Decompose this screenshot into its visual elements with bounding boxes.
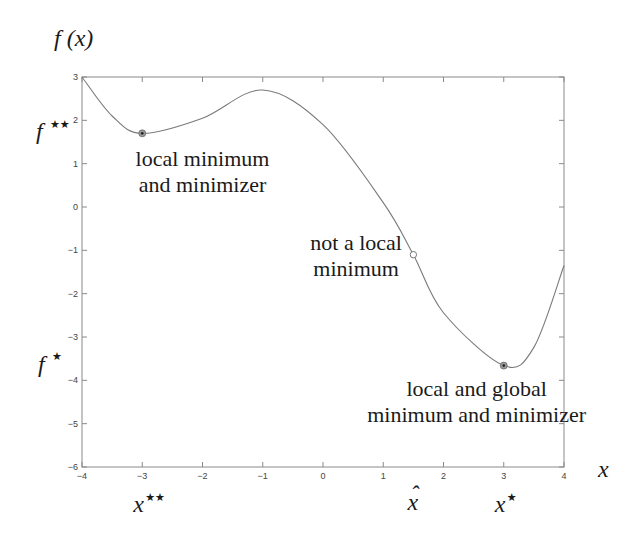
f-star-label: f: [38, 351, 48, 377]
x-axis-title: x: [597, 456, 609, 482]
chart-canvas: −4−3−2−101234−6−5−4−3−2−10123 local mini…: [0, 0, 637, 540]
local-minimum-note-line: local minimum: [136, 146, 270, 171]
x-tick-label: 3: [501, 471, 506, 481]
x-star-superscript: ★: [507, 491, 517, 504]
x-tick-label: 0: [320, 471, 325, 481]
y-tick-label: 3: [73, 72, 78, 82]
annotations-layer: local minimumand minimizernot a localmin…: [136, 146, 587, 427]
x-star-star-label: x: [132, 491, 144, 517]
x-hat-accent: ˆ: [410, 481, 419, 507]
y-tick-label: 1: [73, 159, 78, 169]
global-minimum-note-line: minimum and minimizer: [367, 402, 586, 427]
x-tick-label: −1: [258, 471, 268, 481]
y-tick-label: −3: [68, 332, 78, 342]
x-tick-label: 1: [381, 471, 386, 481]
y-tick-label: −5: [68, 419, 78, 429]
series-line: [82, 77, 564, 368]
not-local-minimum-note-line: not a local: [310, 230, 402, 255]
f-star-superscript: ★: [52, 350, 62, 363]
y-axis-title: f (x): [54, 25, 93, 51]
x-tick-label: 2: [441, 471, 446, 481]
y-tick-label: −2: [68, 289, 78, 299]
y-tick-label: −1: [68, 245, 78, 255]
x-star-star-superscript: ★★: [145, 491, 165, 504]
series-layer: [82, 77, 564, 368]
x-star-label: x: [494, 491, 506, 517]
not-local-minimum-marker: [410, 251, 416, 257]
y-tick-label: 2: [73, 115, 78, 125]
local-minimum-note-line: and minimizer: [139, 172, 267, 197]
global-minimizer-marker-center: [502, 364, 505, 367]
not-local-minimum-note-line: minimum: [313, 256, 399, 281]
y-tick-label: −4: [68, 375, 78, 385]
f-star-star-label: f: [36, 118, 46, 144]
f-star-star-superscript: ★★: [50, 118, 70, 131]
global-minimum-note-line: local and global: [406, 376, 547, 401]
y-tick-label: 0: [73, 202, 78, 212]
x-tick-label: −3: [137, 471, 147, 481]
y-tick-label: −6: [68, 462, 78, 472]
local-minimizer-marker-center: [141, 132, 144, 135]
x-tick-label: −2: [197, 471, 207, 481]
x-tick-label: −4: [77, 471, 87, 481]
x-tick-label: 4: [561, 471, 566, 481]
